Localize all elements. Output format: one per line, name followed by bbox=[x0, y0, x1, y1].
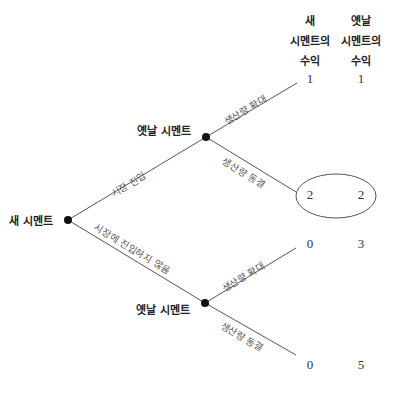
payoff-old-4: 5 bbox=[351, 357, 371, 373]
branch-not-enter bbox=[68, 220, 205, 303]
payoff-new-1: 1 bbox=[300, 71, 320, 87]
payoff-new-4: 0 bbox=[300, 357, 320, 373]
lower-node-label: 옛날 시멘트 bbox=[136, 301, 190, 317]
header-old-cement-payoff: 옛날 시멘트의 수익 bbox=[326, 12, 394, 72]
upper-node bbox=[202, 133, 210, 141]
root-node-label: 새 시멘트 bbox=[9, 212, 53, 228]
root-node bbox=[64, 216, 72, 224]
payoff-new-3: 0 bbox=[300, 236, 320, 252]
lower-node bbox=[201, 299, 209, 307]
header-line: 시멘트의 bbox=[326, 32, 394, 52]
payoff-old-3: 3 bbox=[351, 236, 371, 252]
upper-node-label: 옛날 시멘트 bbox=[137, 122, 191, 138]
header-line: 수익 bbox=[326, 52, 394, 72]
payoff-old-1: 1 bbox=[351, 71, 371, 87]
payoff-new-2: 2 bbox=[300, 187, 320, 203]
payoff-old-2: 2 bbox=[351, 187, 371, 203]
header-line: 옛날 bbox=[326, 12, 394, 32]
